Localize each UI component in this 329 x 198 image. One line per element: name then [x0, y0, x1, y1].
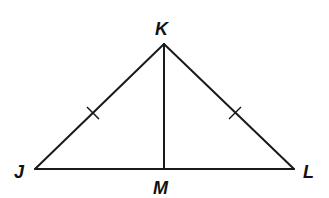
vertex-label-l: L — [303, 162, 314, 182]
diagram-svg: K J L M — [0, 0, 329, 198]
vertex-label-m: M — [153, 178, 169, 198]
segment-jk — [35, 44, 164, 169]
triangle-diagram: K J L M — [0, 0, 329, 198]
vertex-label-k: K — [155, 19, 170, 39]
vertex-label-j: J — [14, 162, 25, 182]
segment-kl — [164, 44, 294, 169]
